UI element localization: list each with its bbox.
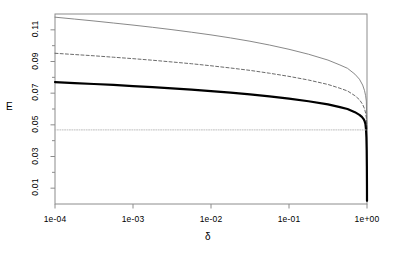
x-tick-label: 1e+00 xyxy=(343,214,391,224)
x-tick-label: 1e-04 xyxy=(31,214,79,224)
y-tick-label: 0.01 xyxy=(30,173,40,201)
x-tick-label: 1e-01 xyxy=(265,214,313,224)
y-tick-label: 0.11 xyxy=(30,15,40,43)
plot-frame xyxy=(55,14,367,204)
y-tick-label: 0.03 xyxy=(30,142,40,170)
axis-ticks xyxy=(51,30,368,209)
y-tick-label: 0.05 xyxy=(30,110,40,138)
x-tick-label: 1e-02 xyxy=(187,214,235,224)
y-axis-title: E xyxy=(6,101,13,112)
y-tick-label: 0.09 xyxy=(30,47,40,75)
data-series-group xyxy=(55,17,367,201)
x-axis-title: δ xyxy=(205,231,211,242)
y-tick-label: 0.07 xyxy=(30,78,40,106)
series-line-upper-thin-solid xyxy=(55,17,367,129)
chart-figure: 0.010.030.050.070.090.11 1e-041e-031e-02… xyxy=(0,0,395,254)
series-line-lower-thick-solid xyxy=(55,82,367,201)
x-tick-label: 1e-03 xyxy=(109,214,157,224)
